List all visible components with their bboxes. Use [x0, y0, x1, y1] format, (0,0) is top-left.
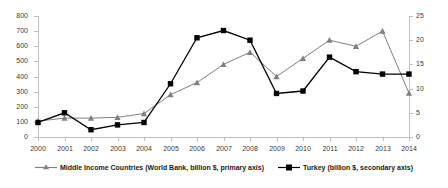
data-point-square-marker	[380, 71, 385, 76]
data-point-square-marker	[35, 120, 40, 125]
legend-item-middle-income-countries[interactable]: Middle Income Countries (World Bank, bil…	[35, 163, 264, 172]
data-point-square-marker	[353, 69, 358, 74]
plot-area	[0, 0, 448, 188]
data-point-square-marker	[115, 122, 120, 127]
data-point-square-marker	[274, 91, 279, 96]
legend-marker-square-icon	[278, 163, 300, 172]
legend-label-middle-income-countries: Middle Income Countries (World Bank, bil…	[60, 163, 264, 172]
data-point-square-marker	[168, 81, 173, 86]
data-point-square-marker	[300, 88, 305, 93]
legend-marker-triangle-icon	[35, 163, 57, 172]
data-point-square-marker	[221, 28, 226, 33]
data-point-square-marker	[406, 71, 411, 76]
series-middle-income-countries	[35, 28, 412, 124]
data-point-triangle-marker	[379, 28, 385, 34]
data-point-triangle-marker	[326, 37, 332, 43]
series-line	[38, 31, 409, 121]
data-point-triangle-marker	[220, 61, 226, 67]
legend-label-turkey: Turkey (billion $, secondary axis)	[303, 163, 413, 172]
legend-item-turkey[interactable]: Turkey (billion $, secondary axis)	[278, 163, 413, 172]
chart-legend: Middle Income Countries (World Bank, bil…	[0, 163, 448, 172]
data-point-square-marker	[194, 35, 199, 40]
data-point-triangle-marker	[167, 92, 173, 98]
data-point-square-marker	[88, 127, 93, 132]
data-point-square-marker	[62, 110, 67, 115]
data-point-triangle-marker	[247, 49, 253, 55]
data-point-triangle-marker	[300, 55, 306, 61]
data-point-square-marker	[247, 38, 252, 43]
data-point-triangle-marker	[406, 90, 412, 96]
data-point-square-marker	[141, 120, 146, 125]
data-point-triangle-marker	[141, 110, 147, 116]
data-point-triangle-marker	[194, 79, 200, 85]
chart-container: 0100200300400500600700800 0510152025 200…	[0, 0, 448, 188]
data-point-square-marker	[327, 54, 332, 59]
